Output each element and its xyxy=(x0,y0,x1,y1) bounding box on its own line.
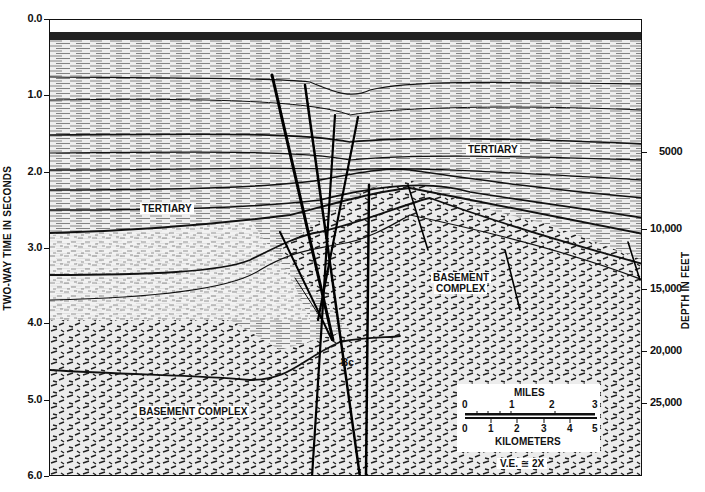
label-basement-right-1: BASEMENT xyxy=(431,272,491,283)
label-tertiary-right: TERTIARY xyxy=(466,144,520,155)
km-tick-1: 1 xyxy=(488,423,494,434)
time-tick-3: 3.0 xyxy=(14,241,42,253)
miles-tick-3: 3 xyxy=(592,399,598,410)
tick-mark xyxy=(44,476,49,477)
km-tick-5: 5 xyxy=(592,423,598,434)
depth-tick-10000: 10,000 xyxy=(650,222,705,234)
km-tick-2: 2 xyxy=(514,423,520,434)
vertical-exaggeration: V.E. ≅ 2X xyxy=(497,458,547,469)
label-tertiary-left: TERTIARY xyxy=(140,203,194,214)
scale-bar: MILES 0 1 2 3 0 1 2 3 4 5 KILOMETERS V.E… xyxy=(457,384,600,476)
km-tick-0: 0 xyxy=(462,423,468,434)
miles-label: MILES xyxy=(514,387,545,398)
time-tick-5: 5.0 xyxy=(14,393,42,405)
time-tick-0: 0.0 xyxy=(14,12,42,24)
tick-mark xyxy=(642,289,647,290)
time-tick-2: 2.0 xyxy=(14,165,42,177)
depth-tick-5000: 5000 xyxy=(659,145,705,157)
scale-bar-lines xyxy=(457,411,600,423)
depth-tick-15000: 15,000 xyxy=(650,282,705,294)
depth-tick-25000: 25,000 xyxy=(650,396,705,408)
depth-tick-20000: 20,000 xyxy=(650,344,705,356)
tick-mark xyxy=(642,351,647,352)
tick-mark xyxy=(642,152,647,153)
miles-tick-0: 0 xyxy=(462,399,468,410)
km-tick-4: 4 xyxy=(567,423,573,434)
time-axis-title: TWO-WAY TIME IN SECONDS xyxy=(2,181,13,311)
label-bc: Bc xyxy=(339,357,356,368)
km-tick-3: 3 xyxy=(541,423,547,434)
time-tick-4: 4.0 xyxy=(14,316,42,328)
tick-mark xyxy=(642,403,647,404)
label-basement-right-2: COMPLEX xyxy=(434,283,487,294)
tick-mark xyxy=(642,229,647,230)
seismic-section-panel: TERTIARY TERTIARY BASEMENT COMPLEX BASEM… xyxy=(49,19,642,476)
miles-tick-2: 2 xyxy=(549,399,555,410)
time-tick-6: 6.0 xyxy=(14,469,42,481)
miles-tick-1: 1 xyxy=(509,399,515,410)
km-label: KILOMETERS xyxy=(495,436,561,447)
label-basement-left: BASEMENT COMPLEX xyxy=(137,406,249,417)
time-tick-1: 1.0 xyxy=(14,88,42,100)
